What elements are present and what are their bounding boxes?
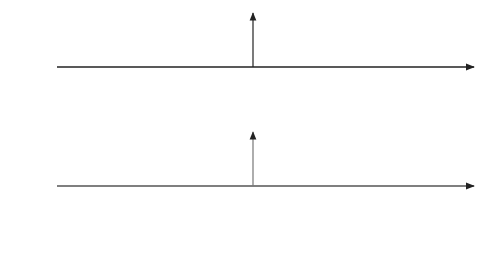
panel-b	[57, 132, 474, 186]
figure-canvas	[0, 0, 498, 255]
panel-a	[57, 13, 474, 67]
gaussian-beam-diagram	[0, 0, 498, 255]
